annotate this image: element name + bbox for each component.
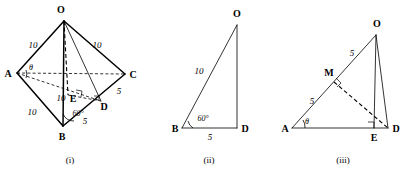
figure-i-measure-OB: 10 [57,93,67,103]
right-angle-mark-at-E [368,122,374,128]
figure-ii-angle-marks [188,121,193,128]
figure-i-vertex-label-B: B [59,131,66,142]
figure-ii-group: O B D 10 5 60° (ii) [172,8,249,165]
figure-i-vertex-label-C: C [129,69,136,80]
figure-i-caption: (i) [66,155,75,165]
edge-M-D-hidden [334,82,388,128]
figure-ii-edges [182,25,237,128]
figure-i-measure-OA: 10 [29,40,39,50]
figure-i-angle-60: 60° [72,109,84,118]
figure-i-measure-OC: 10 [93,40,103,50]
figure-iii-vertex-label-O: O [373,18,381,29]
right-angle-mark-at-M [336,78,341,87]
figure-i-angle-theta: θ [29,63,33,72]
figure-iii-vertex-label-M: M [324,67,334,78]
geometry-diagram-svg: O A B C D E 10 10 10 10 5 5 θ 60° (i) O … [0,0,411,179]
figure-ii-measure-BD: 5 [208,132,213,142]
figure-iii-caption: (iii) [336,155,350,165]
figure-iii-group: O A D E M 5 5 θ (iii) [281,18,399,165]
angle-arc-at-B [188,121,193,128]
figure-i-vertex-label-E: E [70,93,77,104]
figure-iii-measure-AM: 5 [310,96,315,106]
edge-O-E [374,35,376,128]
figure-i-measure-DC: 5 [117,86,122,96]
figure-iii-vertex-label-A: A [281,123,289,134]
edge-A-C-hidden [17,73,125,74]
figure-ii-caption: (ii) [204,155,215,165]
edge-O-D [64,21,101,101]
edge-A-O [292,35,376,128]
figure-ii-vertex-label-O: O [233,8,241,19]
figure-i-group: O A B C D E 10 10 10 10 5 5 θ 60° (i) [4,4,136,165]
figure-iii-angle-theta: θ [305,117,309,126]
geometry-figure-sheet: O A B C D E 10 10 10 10 5 5 θ 60° (i) O … [0,0,411,179]
figure-i-vertex-label-O: O [57,4,65,15]
figure-iii-vertex-label-E: E [371,132,378,143]
figure-ii-vertex-label-D: D [241,123,248,134]
figure-ii-angle-60: 60° [197,114,209,123]
figure-ii-vertex-label-B: B [172,123,179,134]
figure-i-vertex-label-A: A [4,68,12,79]
figure-iii-edges [292,35,388,128]
edge-O-A [17,21,64,73]
angle-arc-at-A [26,70,27,78]
figure-iii-vertex-label-D: D [392,123,399,134]
figure-iii-measure-MO: 5 [350,48,355,58]
edge-O-D [376,35,388,128]
edge-B-O [182,25,237,128]
figure-i-vertex-label-D: D [100,101,107,112]
figure-ii-measure-BO: 10 [195,66,205,76]
figure-i-measure-AB: 10 [28,107,38,117]
